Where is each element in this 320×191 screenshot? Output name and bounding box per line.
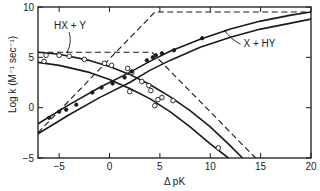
- filled-data-point: [201, 37, 204, 40]
- x-tick-label: 15: [255, 161, 267, 172]
- filled-data-point: [75, 103, 78, 106]
- filled-data-point: [100, 86, 103, 89]
- y-tick-label: 5: [28, 52, 34, 63]
- open-data-point: [42, 59, 47, 64]
- annotation-label: X + HY: [244, 38, 276, 49]
- filled-data-point: [65, 108, 68, 111]
- filled-data-point: [123, 76, 126, 79]
- open-data-point: [139, 79, 144, 84]
- arrow-head-icon: [224, 30, 226, 32]
- y-tick-label: −5: [23, 153, 35, 164]
- open-data-point: [171, 98, 176, 103]
- open-data-point: [125, 66, 130, 71]
- filled-data-point: [57, 110, 60, 113]
- x-tick-label: 20: [305, 161, 317, 172]
- arrow-head-icon: [66, 51, 68, 53]
- chart: −505101520−50510Δ pKLog k (M⁻¹ sec⁻¹)HX …: [0, 0, 320, 191]
- x-axis-label: Δ pK: [164, 176, 185, 187]
- open-data-point: [153, 103, 158, 108]
- x-tick-label: −5: [53, 161, 65, 172]
- y-tick-label: 0: [28, 102, 34, 113]
- plot-area: [38, 12, 311, 158]
- labels: −505101520−50510Δ pKLog k (M⁻¹ sec⁻¹)HX …: [7, 2, 317, 188]
- open-data-point: [127, 89, 132, 94]
- filled-data-point: [160, 52, 163, 55]
- filled-data-point: [111, 82, 114, 85]
- series-line-3: [38, 19, 311, 134]
- x-tick-label: 0: [107, 161, 113, 172]
- open-data-point: [67, 54, 72, 59]
- annotation-label: HX + Y: [54, 20, 86, 31]
- x-tick-label: 10: [205, 161, 217, 172]
- y-tick-label: 10: [23, 2, 35, 13]
- open-data-point: [147, 83, 152, 88]
- open-data-point: [82, 57, 87, 62]
- filled-data-point: [130, 70, 133, 73]
- x-tick-label: 5: [157, 161, 163, 172]
- open-data-point: [149, 88, 154, 93]
- open-data-point: [44, 53, 49, 58]
- filled-data-point: [91, 91, 94, 94]
- annotation-arrow: [67, 32, 70, 52]
- open-data-point: [102, 61, 107, 66]
- open-data-point: [109, 63, 114, 68]
- filled-data-point: [145, 59, 148, 62]
- filled-data-point: [154, 54, 157, 57]
- open-data-point: [216, 146, 221, 151]
- filled-data-point: [172, 49, 175, 52]
- open-data-point: [156, 97, 161, 102]
- open-data-point: [57, 53, 62, 58]
- filled-data-point: [47, 116, 50, 119]
- series-group: [38, 12, 311, 158]
- y-axis-label: Log k (M⁻¹ sec⁻¹): [7, 36, 18, 113]
